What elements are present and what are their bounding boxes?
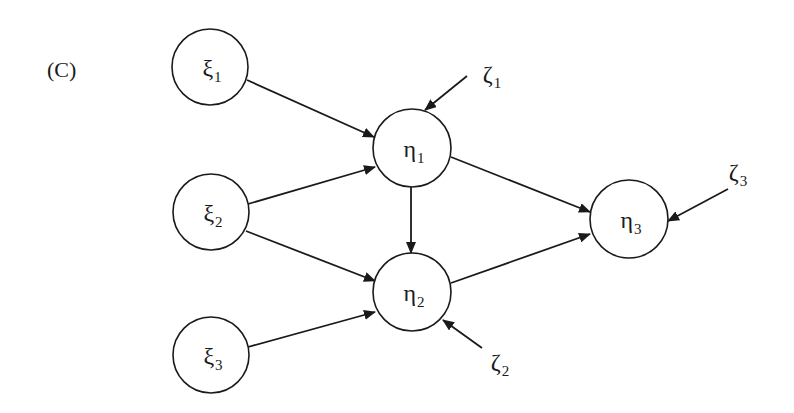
path-diagram xyxy=(0,0,794,413)
edge-eta2-to-eta3 xyxy=(451,234,590,283)
symbol: η xyxy=(620,207,633,233)
edge-xi2-to-eta1 xyxy=(248,167,375,204)
nodes-label-eta1: η1 xyxy=(403,137,424,161)
subscript: 3 xyxy=(215,357,223,373)
symbol: η xyxy=(403,136,416,162)
nodes-label-xi1: ξ1 xyxy=(202,56,221,80)
errors-label-zeta1: ζ1 xyxy=(483,62,501,86)
subscript: 1 xyxy=(494,75,502,91)
symbol: ζ xyxy=(491,349,501,375)
symbol: ξ xyxy=(203,343,214,369)
subscript: 2 xyxy=(417,294,425,310)
symbol: ζ xyxy=(729,159,739,185)
subscript: 2 xyxy=(502,363,510,379)
nodes-label-xi3: ξ3 xyxy=(203,344,222,368)
edge-zeta3-to-eta3 xyxy=(668,189,728,221)
symbol: ξ xyxy=(203,200,214,226)
errors-label-zeta3: ζ3 xyxy=(729,160,747,184)
edge-xi1-to-eta1 xyxy=(247,80,374,137)
subscript: 3 xyxy=(740,173,748,189)
edge-xi2-to-eta2 xyxy=(246,231,375,281)
nodes-label-xi2: ξ2 xyxy=(203,201,222,225)
edge-xi3-to-eta2 xyxy=(248,312,375,347)
subscript: 1 xyxy=(417,150,425,166)
subscript: 1 xyxy=(214,69,222,85)
edge-zeta2-to-eta2 xyxy=(443,320,482,348)
symbol: η xyxy=(403,280,416,306)
nodes-label-eta2: η2 xyxy=(403,281,424,305)
errors-label-zeta2: ζ2 xyxy=(491,350,509,374)
symbol: ξ xyxy=(202,55,213,81)
nodes-layer xyxy=(172,29,668,393)
subscript: 3 xyxy=(634,221,642,237)
subscript: 2 xyxy=(215,214,223,230)
nodes-label-eta3: η3 xyxy=(620,208,641,232)
edge-zeta1-to-eta1 xyxy=(425,76,467,110)
edge-eta1-to-eta3 xyxy=(451,157,590,212)
symbol: ζ xyxy=(483,61,493,87)
